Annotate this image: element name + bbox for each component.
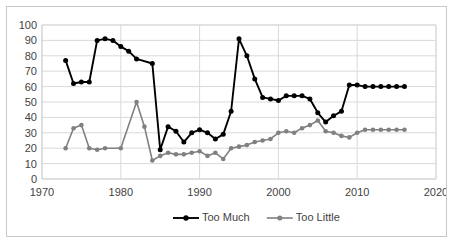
data-point <box>71 81 76 86</box>
data-point <box>245 143 250 148</box>
data-point <box>229 146 234 151</box>
data-point <box>315 110 320 115</box>
data-point <box>166 151 171 156</box>
chart-container: 0102030405060708090100197019801990200020… <box>6 6 447 237</box>
data-point <box>134 56 139 61</box>
data-point <box>307 96 312 101</box>
data-point <box>402 127 407 132</box>
data-point <box>95 38 100 43</box>
data-point <box>150 61 155 66</box>
data-point <box>181 140 186 145</box>
x-axis-tick-label: 2000 <box>266 186 290 198</box>
data-point <box>378 84 383 89</box>
legend-marker-dot <box>277 216 282 221</box>
data-point <box>323 129 328 134</box>
data-point <box>323 120 328 125</box>
data-point <box>142 124 147 129</box>
x-axis-tick-label: 1990 <box>187 186 211 198</box>
data-point <box>79 123 84 128</box>
y-axis-tick-label: 50 <box>25 96 37 108</box>
data-point <box>166 124 171 129</box>
data-point <box>118 44 123 49</box>
data-point <box>134 100 139 105</box>
y-axis-tick-label: 10 <box>25 158 37 170</box>
data-point <box>237 144 242 149</box>
y-axis-tick-label: 30 <box>25 127 37 139</box>
x-axis-tick-label: 1970 <box>30 186 54 198</box>
data-point <box>229 109 234 114</box>
data-point <box>268 137 273 142</box>
data-point <box>402 84 407 89</box>
data-point <box>292 93 297 98</box>
data-point <box>71 126 76 131</box>
data-point <box>95 147 100 152</box>
data-point <box>284 129 289 134</box>
data-point <box>363 127 368 132</box>
y-axis-tick-label: 70 <box>25 65 37 77</box>
x-axis-tick-label: 2010 <box>345 186 369 198</box>
data-point <box>87 146 92 151</box>
legend-label: Too Little <box>296 211 340 223</box>
data-point <box>276 98 281 103</box>
data-point <box>158 147 163 152</box>
data-point <box>252 76 257 81</box>
data-point <box>197 149 202 154</box>
data-point <box>370 84 375 89</box>
data-point <box>371 127 376 132</box>
data-point <box>158 154 163 159</box>
data-point <box>292 131 297 136</box>
data-point <box>308 123 313 128</box>
data-point <box>244 53 249 58</box>
data-point <box>386 127 391 132</box>
data-point <box>260 95 265 100</box>
data-point <box>205 130 210 135</box>
data-point <box>221 132 226 137</box>
data-point <box>363 84 368 89</box>
data-point <box>119 146 124 151</box>
data-point <box>103 36 108 41</box>
data-point <box>252 140 257 145</box>
data-point <box>394 127 399 132</box>
data-point <box>268 96 273 101</box>
data-point <box>347 135 352 140</box>
data-point <box>103 146 108 151</box>
data-point <box>197 127 202 132</box>
data-point <box>150 158 155 163</box>
data-point <box>182 152 187 157</box>
y-axis-tick-label: 60 <box>25 81 37 93</box>
series-line-too-little <box>66 102 405 161</box>
data-point <box>331 113 336 118</box>
data-point <box>126 49 131 54</box>
data-point <box>260 138 265 143</box>
data-point <box>355 131 360 136</box>
data-point <box>316 118 321 123</box>
x-axis-tick-label: 2020 <box>424 186 446 198</box>
data-point <box>347 83 352 88</box>
data-point <box>63 146 68 151</box>
data-point <box>110 38 115 43</box>
data-point <box>213 136 218 141</box>
data-point <box>213 151 218 156</box>
data-point <box>63 58 68 63</box>
data-point <box>331 131 336 136</box>
y-axis-tick-label: 40 <box>25 111 37 123</box>
y-axis-tick-label: 20 <box>25 142 37 154</box>
y-axis-tick-label: 90 <box>25 34 37 46</box>
legend-marker-dot <box>183 215 188 220</box>
data-point <box>284 93 289 98</box>
data-point <box>173 129 178 134</box>
data-point <box>339 109 344 114</box>
y-axis-tick-label: 100 <box>19 19 37 31</box>
y-axis-tick-label: 80 <box>25 50 37 62</box>
data-point <box>300 126 305 131</box>
data-point <box>300 93 305 98</box>
data-point <box>221 157 226 162</box>
data-point <box>87 79 92 84</box>
data-point <box>394 84 399 89</box>
data-point <box>79 79 84 84</box>
data-point <box>339 134 344 139</box>
data-point <box>205 154 210 159</box>
line-chart: 0102030405060708090100197019801990200020… <box>7 7 446 236</box>
data-point <box>355 83 360 88</box>
data-point <box>189 151 194 156</box>
